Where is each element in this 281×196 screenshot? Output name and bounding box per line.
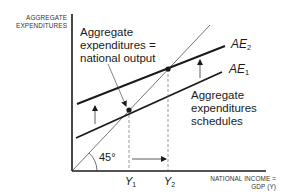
x-axis-label: NATIONAL INCOME = GDP (Y) [196,175,276,190]
y-axis-label-line2: EXPENDITURES [0,22,67,30]
equilibrium-point-y2 [165,66,170,71]
ae1-label-main: AE [229,62,245,76]
y1-tick-sub: 1 [132,181,136,188]
x-axis-label-line2: GDP (Y) [196,183,276,191]
y-axis-label-line1: AGGREGATE [0,14,67,22]
identity-label: Aggregate expenditures = national output [80,26,156,65]
ae2-label-main: AE [231,37,247,51]
ae1-label-sub: 1 [245,68,249,77]
identity-label-line3: national output [80,52,156,65]
schedules-label-line2: expenditures [191,102,257,115]
identity-label-line2: expenditures = [80,39,156,52]
angle-label: 45° [99,151,116,163]
identity-label-line1: Aggregate [80,26,156,39]
y-axis-label: AGGREGATE EXPENDITURES [0,14,67,29]
x-axis-label-line1: NATIONAL INCOME = [196,175,276,183]
ae2-label-sub: 2 [247,43,251,52]
equilibrium-point-y1 [126,107,131,112]
schedules-label-line3: schedules [191,115,257,128]
ae2-label: AE2 [231,37,251,52]
y2-tick-sub: 2 [171,181,175,188]
angle-arc [89,153,97,171]
y2-tick-label: Y2 [164,175,175,188]
ae1-label: AE1 [229,62,249,77]
y1-tick-label: Y1 [125,175,136,188]
schedules-label-line1: Aggregate [191,89,257,102]
schedules-label: Aggregate expenditures schedules [191,89,257,128]
